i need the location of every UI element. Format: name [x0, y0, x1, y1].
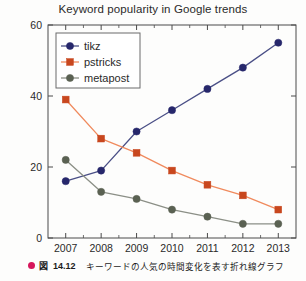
line-chart-plot: 0204060 2007200820092010201120122013 tik… — [0, 0, 306, 281]
x-tick-label: 2007 — [54, 242, 78, 254]
caption-figure-number: 14.12 — [53, 261, 76, 271]
data-point-marker — [98, 188, 105, 195]
data-point-marker — [98, 167, 105, 174]
y-tick-label: 0 — [36, 232, 42, 244]
legend-marker-pstricks — [67, 59, 74, 66]
x-axis-tick-labels: 2007200820092010201120122013 — [54, 242, 290, 254]
data-point-marker — [168, 107, 175, 114]
data-point-marker — [98, 135, 105, 142]
caption-figure-word: 図 — [39, 259, 48, 272]
legend-label-metapost: metapost — [84, 72, 129, 84]
y-tick-label: 60 — [30, 19, 42, 31]
data-point-marker — [275, 39, 282, 46]
x-tick-label: 2012 — [231, 242, 255, 254]
data-point-marker — [275, 206, 282, 213]
data-point-marker — [204, 213, 211, 220]
figure-container: Keyword popularity in Google trends 0204… — [0, 0, 306, 281]
legend-marker-metapost — [66, 74, 73, 81]
data-point-marker — [133, 128, 140, 135]
y-axis-tick-labels: 0204060 — [30, 19, 42, 244]
y-tick-label: 40 — [30, 90, 42, 102]
data-point-marker — [133, 195, 140, 202]
data-point-marker — [62, 156, 69, 163]
caption-text: キーワードの人気の時間変化を表す折れ線グラフ — [86, 260, 284, 272]
data-point-marker — [204, 181, 211, 188]
data-point-marker — [239, 220, 246, 227]
data-point-marker — [239, 192, 246, 199]
x-tick-label: 2009 — [125, 242, 149, 254]
legend-label-tikz: tikz — [84, 40, 101, 52]
data-point-marker — [275, 220, 282, 227]
y-tick-label: 20 — [30, 161, 42, 173]
bullet-icon — [28, 262, 35, 269]
data-point-marker — [133, 149, 140, 156]
legend-label-pstricks: pstricks — [84, 56, 122, 68]
legend-marker-tikz — [66, 42, 73, 49]
data-point-marker — [239, 64, 246, 71]
figure-caption: 図 14.12 キーワードの人気の時間変化を表す折れ線グラフ — [28, 259, 306, 272]
x-tick-label: 2013 — [267, 242, 291, 254]
data-point-marker — [62, 178, 69, 185]
x-tick-label: 2010 — [160, 242, 184, 254]
x-tick-label: 2008 — [89, 242, 113, 254]
x-tick-label: 2011 — [196, 242, 219, 254]
data-point-marker — [204, 85, 211, 92]
chart-legend: tikzpstricksmetapost — [56, 33, 140, 88]
data-point-marker — [168, 206, 175, 213]
data-point-marker — [169, 167, 176, 174]
data-point-marker — [62, 96, 69, 103]
